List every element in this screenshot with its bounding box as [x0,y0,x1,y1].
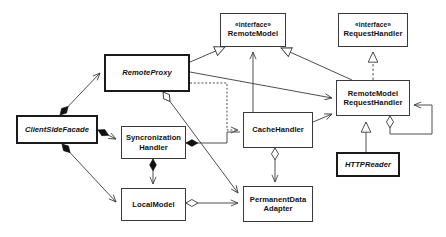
node-remote-model-request-handler-label: RemoteModel RequestHandler [344,89,403,108]
node-remote-model-label: RemoteModel [228,29,278,38]
rel-cachehandler-uses-rmrh [313,114,332,122]
node-request-handler-label: RequestHandler [344,29,403,38]
node-remote-proxy-label: RemoteProxy [122,68,172,77]
node-remote-proxy[interactable]: RemoteProxy [104,54,190,92]
rel-proxy-uses-rmrh [190,72,332,98]
node-local-model[interactable]: LocalModel [121,188,186,221]
node-permanent-data-adapter[interactable]: PermanentData Adapter [243,186,313,222]
node-client-side-facade[interactable]: ClientSideFacade [16,115,98,144]
node-permanent-data-adapter-label: PermanentData Adapter [250,195,306,214]
rel-facade-composes-localmodel [62,144,116,202]
node-syncronization-handler-label: Syncronization Handler [126,133,181,152]
node-cache-handler[interactable]: CacheHandler [243,112,313,148]
node-cache-handler-label: CacheHandler [252,125,304,134]
rel-facade-composes-proxy [60,73,100,115]
node-request-handler-stereotype: «interface» [355,21,391,29]
uml-class-diagram: «interface» RemoteModel «interface» Requ… [0,0,446,237]
node-remote-model-stereotype: «interface» [235,21,271,29]
node-http-reader[interactable]: HTTPReader [336,152,400,177]
node-remote-model-request-handler[interactable]: RemoteModel RequestHandler [336,80,410,116]
node-client-side-facade-label: ClientSideFacade [25,125,89,134]
node-syncronization-handler[interactable]: Syncronization Handler [121,126,186,159]
node-http-reader-label: HTTPReader [345,160,391,169]
node-local-model-label: LocalModel [132,200,174,209]
rel-proxy-depends-cachehandler [190,83,238,130]
rel-facade-composes-synchandler [98,130,116,139]
rel-proxy-realizes-remotemodel [190,47,225,62]
rel-rmrh-realizes-remotemodel [281,48,352,80]
node-request-handler[interactable]: «interface» RequestHandler [338,13,408,47]
node-remote-model[interactable]: «interface» RemoteModel [220,13,286,47]
